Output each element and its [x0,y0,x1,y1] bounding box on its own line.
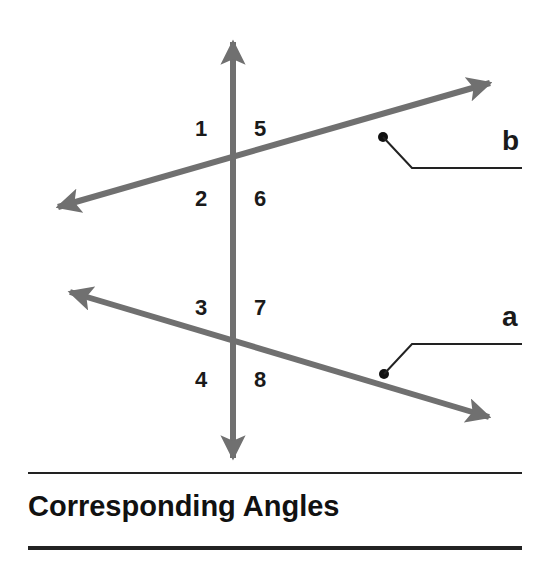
line-a-label: a [502,301,518,332]
line-b [58,83,490,207]
angle-label-4: 4 [195,367,208,392]
angle-label-5: 5 [254,116,266,141]
angle-label-3: 3 [195,295,207,320]
caption-bottom-rule [28,546,522,550]
angle-label-2: 2 [195,186,207,211]
diagram-caption: Corresponding Angles [28,490,340,523]
angle-label-8: 8 [254,367,266,392]
line-b-leader [378,132,522,168]
angle-label-1: 1 [195,116,207,141]
caption-top-rule [28,472,522,474]
angle-label-7: 7 [254,295,266,320]
line-b-label: b [502,125,519,156]
line-a-leader [379,344,522,379]
angle-label-6: 6 [254,186,266,211]
line-a [70,292,489,417]
